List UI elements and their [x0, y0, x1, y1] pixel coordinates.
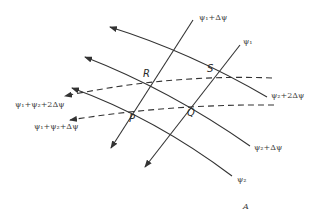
psi2-line [72, 88, 232, 176]
label-psi1: ψ₁ [243, 38, 252, 46]
label-psi2-plus-dpsi: ψ₂+Δψ [254, 144, 282, 152]
stream-function-diagram: ψ₁+Δψ ψ₁ ψ₂+2Δψ ψ₂+Δψ ψ₂ ψ₁+ψ₂+2Δψ ψ₁+ψ₂… [0, 0, 319, 212]
label-psi2: ψ₂ [237, 176, 246, 184]
label-sum-plus-2dpsi: ψ₁+ψ₂+2Δψ [15, 101, 65, 109]
point-p: P [129, 114, 135, 124]
point-r: R [143, 69, 150, 79]
label-psi1-plus-dpsi: ψ₁+Δψ [199, 14, 227, 22]
label-corner-a: A [243, 203, 249, 211]
point-s: S [207, 64, 213, 74]
point-q: Q [187, 108, 195, 118]
label-sum-plus-dpsi: ψ₁+ψ₂+Δψ [34, 123, 78, 131]
sum-plus-2dpsi-dashed-line [65, 77, 272, 96]
sum-plus-dpsi-dashed-line [70, 105, 274, 120]
psi1-plus-dpsi-line [111, 20, 193, 148]
label-psi2-plus-2dpsi: ψ₂+2Δψ [271, 92, 304, 100]
